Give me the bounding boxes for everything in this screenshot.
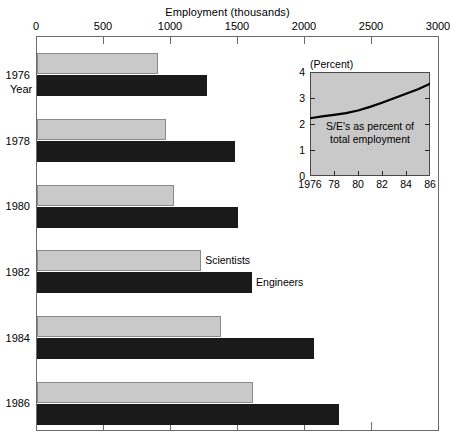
tick-mark-2500 (371, 36, 372, 44)
tick-mark-2500 (371, 422, 372, 430)
year-label-1980: 1980 (6, 200, 30, 212)
bar-scientists-1982 (37, 250, 201, 271)
inset-x-tick-1976: 1976 (298, 178, 321, 190)
x-tick-label-2000: 2000 (292, 20, 316, 32)
tick-mark-500 (103, 36, 104, 44)
series-label-scientists: Scientists (205, 254, 250, 266)
year-label-1986: 1986 (6, 397, 30, 409)
axis-line-bottom (36, 430, 439, 431)
x-tick-label-3000: 3000 (426, 20, 450, 32)
inset-y-tick-4: 4 (299, 66, 305, 78)
tick-mark-1500 (237, 36, 238, 44)
year-axis-label: Year (10, 83, 32, 95)
x-tick-label-500: 500 (94, 20, 112, 32)
inset-x-tick-86: 86 (424, 178, 436, 190)
bar-scientists-1978 (37, 119, 166, 140)
x-tick-label-1000: 1000 (158, 20, 182, 32)
inset-y-tick-1: 1 (299, 144, 305, 156)
tick-mark-1000 (170, 36, 171, 44)
bar-engineers-1984 (37, 338, 314, 359)
bar-scientists-1984 (37, 316, 221, 337)
tick-mark-2000 (304, 36, 305, 44)
bar-scientists-1980 (37, 185, 174, 206)
chart-title: Employment (thousands) (0, 6, 455, 18)
inset-caption-line-1: S/E's as percent of (310, 120, 430, 133)
year-label-1978: 1978 (6, 135, 30, 147)
x-tick-label-2500: 2500 (359, 20, 383, 32)
inset-x-tick-84: 84 (400, 178, 412, 190)
bar-scientists-1986 (37, 382, 253, 403)
bar-engineers-1976 (37, 75, 207, 96)
year-label-1984: 1984 (6, 332, 30, 344)
bar-engineers-1986 (37, 404, 339, 425)
bar-scientists-1976 (37, 53, 158, 74)
inset-percent-chart: (Percent) 01234 19767880828486 S/E's as … (262, 58, 448, 196)
inset-caption: S/E's as percent of total employment (310, 120, 430, 146)
series-label-engineers: Engineers (256, 276, 303, 288)
inset-x-tick-78: 78 (328, 178, 340, 190)
bar-engineers-1982 (37, 272, 252, 293)
year-label-1976: 1976 (6, 69, 30, 81)
inset-y-tick-3: 3 (299, 92, 305, 104)
bar-engineers-1978 (37, 141, 235, 162)
x-tick-label-0: 0 (33, 20, 39, 32)
x-tick-label-1500: 1500 (225, 20, 249, 32)
inset-title: (Percent) (310, 58, 353, 70)
inset-caption-line-2: total employment (310, 133, 430, 146)
inset-y-tick-2: 2 (299, 118, 305, 130)
year-label-1982: 1982 (6, 266, 30, 278)
employment-bar-chart-figure: Employment (thousands) 05001000150020002… (0, 0, 455, 448)
inset-x-tick-80: 80 (352, 178, 364, 190)
inset-x-tick-82: 82 (376, 178, 388, 190)
bar-engineers-1980 (37, 207, 238, 228)
inset-trend-line (310, 84, 430, 119)
